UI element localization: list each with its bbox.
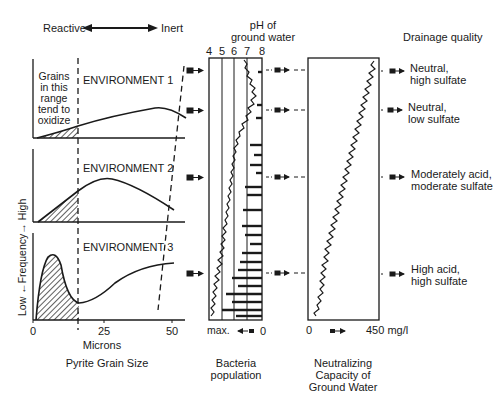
ph-title: pH of: [250, 19, 277, 31]
x-tick: 0: [30, 325, 36, 337]
drainage-item: High acid,: [411, 263, 460, 275]
ph-tick: 4: [206, 45, 212, 57]
ph-panel: pH of ground water 4 5 6 7 8: [206, 19, 295, 381]
bacteria-max-label: max.: [207, 324, 230, 336]
double-arrow-icon: [82, 24, 158, 32]
drainage-item: high sulfate: [411, 275, 467, 287]
grain-size-panel: Grains in this range tend to oxidize ENV…: [16, 58, 186, 369]
annotation-line: oxidize: [38, 114, 71, 126]
bacteria-caption: Bacteria: [216, 357, 257, 369]
right-arrow-icon: [330, 329, 345, 333]
drainage-item: Neutral,: [408, 101, 447, 113]
reactive-label: Reactive: [43, 22, 86, 34]
arrow-icon: [266, 68, 306, 275]
grain-size-caption: Pyrite Grain Size: [66, 357, 149, 369]
ph-tick: 5: [219, 45, 225, 57]
bacteria-caption: population: [211, 369, 262, 381]
neutral-zero-label: 0: [306, 324, 312, 336]
drainage-item: Moderately acid,: [411, 168, 492, 180]
frequency-axis-label: Low ←Frequency→ High: [16, 199, 28, 316]
pyrite-diagram: Reactive Inert Grains: [0, 0, 502, 403]
drainage-item: Neutral,: [410, 62, 449, 74]
neutral-caption: Capacity of: [315, 369, 371, 381]
drainage-item: moderate sulfate: [411, 180, 493, 192]
environment-2-label: ENVIRONMENT 2: [83, 162, 173, 174]
environment-3-label: ENVIRONMENT 3: [83, 241, 173, 253]
ph-tick: 6: [231, 45, 237, 57]
x-tick: 25: [98, 325, 110, 337]
drainage-panel: Drainage quality Neutral, high sulfate N…: [403, 31, 493, 287]
bacteria-zero-label: 0: [260, 325, 266, 337]
neutral-caption: Neutralizing: [314, 357, 372, 369]
drainage-item: low sulfate: [408, 113, 460, 125]
environment-1-label: ENVIRONMENT 1: [83, 74, 173, 86]
arrow-icon: [187, 68, 203, 276]
inert-label: Inert: [161, 22, 183, 34]
ph-title: ground water: [231, 31, 296, 43]
neutral-max-label: 450 mg/l: [366, 324, 408, 336]
drainage-item: high sulfate: [410, 74, 466, 86]
arrow-icon: [381, 69, 404, 276]
neutral-caption: Ground Water: [309, 381, 378, 393]
x-axis-label: Microns: [83, 339, 122, 351]
ph-tick: 8: [259, 45, 265, 57]
left-arrow-icon: [238, 329, 254, 333]
x-tick: 50: [166, 325, 178, 337]
drainage-title: Drainage quality: [403, 31, 483, 43]
ph-tick: 7: [244, 45, 250, 57]
